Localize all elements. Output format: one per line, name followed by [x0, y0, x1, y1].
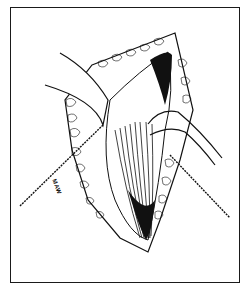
surgical-illustration	[0, 0, 252, 304]
suture-right	[170, 155, 230, 218]
